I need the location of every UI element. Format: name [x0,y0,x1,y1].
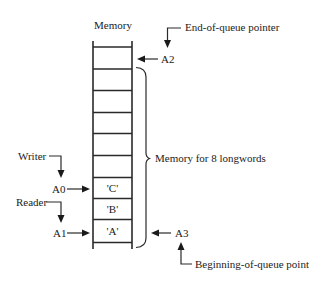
register-a0: A0 [52,183,66,195]
reader-connector [46,202,61,216]
arrow-left-icon [137,56,145,63]
end-of-queue-pointer: End-of-queue pointer A2 [137,21,280,65]
register-a2: A2 [161,53,174,65]
memory-cell-c: 'C' [107,182,118,194]
arrow-left-icon [151,230,159,237]
end-of-queue-connector [168,28,182,41]
writer-label: Writer [18,150,47,162]
writer-pointer: Writer A0 [18,150,90,195]
arrow-down-icon [58,215,65,223]
memory-cell-a: 'A' [107,225,119,237]
writer-connector [49,156,61,171]
register-a1: A1 [53,227,66,239]
arrow-down-icon [58,170,65,178]
queue-memory-diagram: Memory 'C' 'B' 'A' Memory for 8 longword… [0,0,309,281]
beginning-of-queue-pointer: A3 Beginning-of-queue pointer [151,227,309,270]
memory-title: Memory [94,19,132,31]
memory-column [93,41,132,249]
brace-label: Memory for 8 longwords [155,152,266,164]
beginning-of-queue-caption: Beginning-of-queue pointer [195,258,309,270]
arrow-up-icon [178,242,185,250]
end-of-queue-caption: End-of-queue pointer [185,21,280,33]
arrow-down-icon [164,40,171,48]
reader-label: Reader [16,196,47,208]
beginning-of-queue-connector [181,249,192,264]
arrow-right-icon [82,230,90,237]
memory-cell-b: 'B' [107,203,118,215]
brace-icon [136,68,150,248]
arrow-right-icon [82,186,90,193]
reader-pointer: Reader A1 [16,196,90,239]
register-a3: A3 [175,227,189,239]
